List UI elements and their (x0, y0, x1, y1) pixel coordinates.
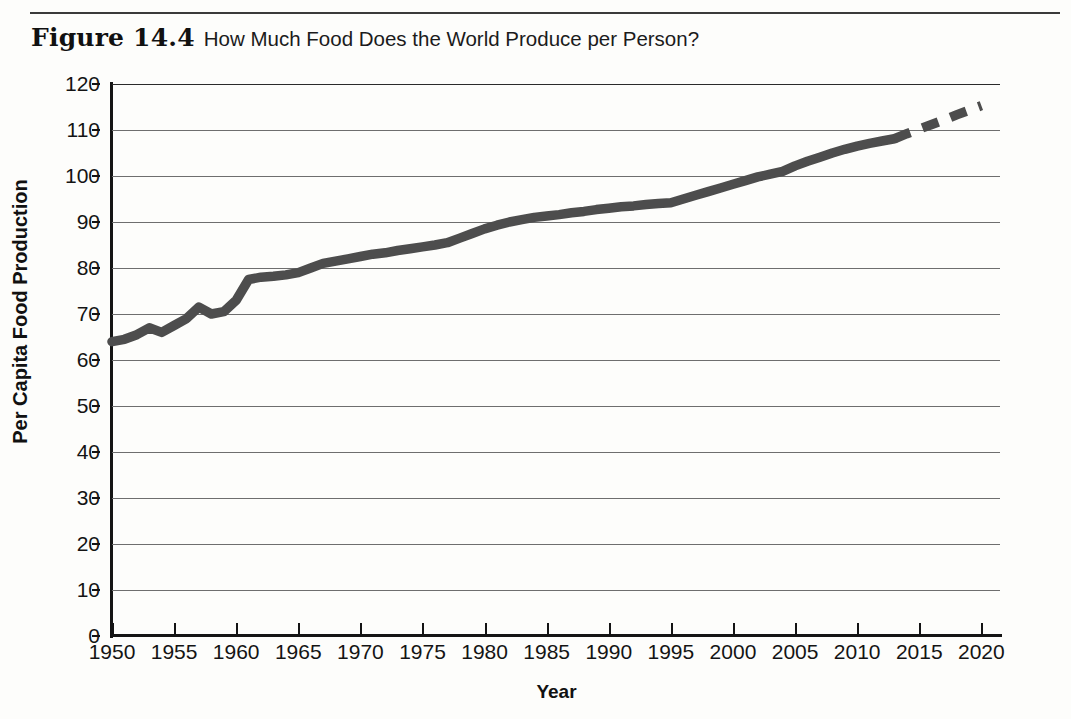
top-divider-rule (30, 12, 1060, 14)
x-tick-label-2010: 2010 (834, 640, 881, 664)
x-tick-label-1950: 1950 (89, 640, 136, 664)
x-tick-mark-2020 (981, 623, 983, 634)
y-tick-label-80: 80 (40, 256, 100, 280)
x-tick-label-1995: 1995 (648, 640, 695, 664)
y-axis-title: Per Capita Food Production (9, 102, 32, 522)
x-tick-mark-1975 (422, 623, 424, 634)
y-tick-label-100: 100 (40, 164, 100, 188)
y-tick-label-60: 60 (40, 348, 100, 372)
x-tick-mark-1955 (174, 623, 176, 634)
x-tick-mark-1960 (236, 623, 238, 634)
x-tick-label-1990: 1990 (585, 640, 632, 664)
x-tick-mark-1950 (112, 623, 114, 634)
x-tick-mark-2000 (733, 623, 735, 634)
plot-area (112, 84, 1000, 636)
x-tick-label-2005: 2005 (772, 640, 819, 664)
x-tick-mark-1980 (485, 623, 487, 634)
x-tick-label-1975: 1975 (399, 640, 446, 664)
y-tick-label-70: 70 (40, 302, 100, 326)
y-axis-tick-labels: 0102030405060708090100110120 (36, 84, 100, 636)
x-tick-label-2000: 2000 (710, 640, 757, 664)
y-tick-label-20: 20 (40, 532, 100, 556)
x-tick-label-1970: 1970 (337, 640, 384, 664)
x-tick-label-1965: 1965 (275, 640, 322, 664)
y-tick-label-30: 30 (40, 486, 100, 510)
x-tick-mark-1970 (360, 623, 362, 634)
x-tick-label-2020: 2020 (958, 640, 1005, 664)
x-tick-mark-1990 (609, 623, 611, 634)
x-tick-label-1960: 1960 (213, 640, 260, 664)
y-tick-label-110: 110 (40, 118, 100, 142)
figure-number: Figure 14.4 (31, 23, 195, 52)
x-tick-mark-1985 (547, 623, 549, 634)
x-axis-tick-marks (112, 623, 1000, 635)
series-line-projected (894, 106, 981, 139)
x-tick-mark-1965 (298, 623, 300, 634)
x-tick-mark-1995 (671, 623, 673, 634)
figure-page: Figure 14.4How Much Food Does the World … (0, 0, 1071, 719)
y-tick-label-50: 50 (40, 394, 100, 418)
y-tick-label-90: 90 (40, 210, 100, 234)
x-tick-label-1980: 1980 (461, 640, 508, 664)
figure-caption: Figure 14.4How Much Food Does the World … (31, 25, 699, 50)
y-tick-label-10: 10 (40, 578, 100, 602)
x-tick-label-1985: 1985 (523, 640, 570, 664)
figure-title: How Much Food Does the World Produce per… (204, 27, 699, 50)
x-axis-title: Year (0, 681, 1071, 703)
line-series-group (112, 84, 1000, 636)
series-line-observed (112, 139, 894, 342)
x-tick-mark-2015 (919, 623, 921, 634)
x-tick-mark-2010 (857, 623, 859, 634)
y-tick-label-120: 120 (40, 72, 100, 96)
y-tick-label-40: 40 (40, 440, 100, 464)
x-tick-label-2015: 2015 (896, 640, 943, 664)
x-tick-mark-2005 (795, 623, 797, 634)
x-tick-label-1955: 1955 (151, 640, 198, 664)
